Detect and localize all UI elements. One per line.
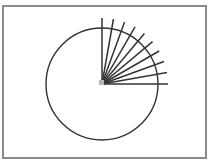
radial-rays bbox=[102, 18, 168, 84]
center-marker bbox=[99, 80, 104, 85]
circle-rays-diagram bbox=[0, 0, 210, 163]
